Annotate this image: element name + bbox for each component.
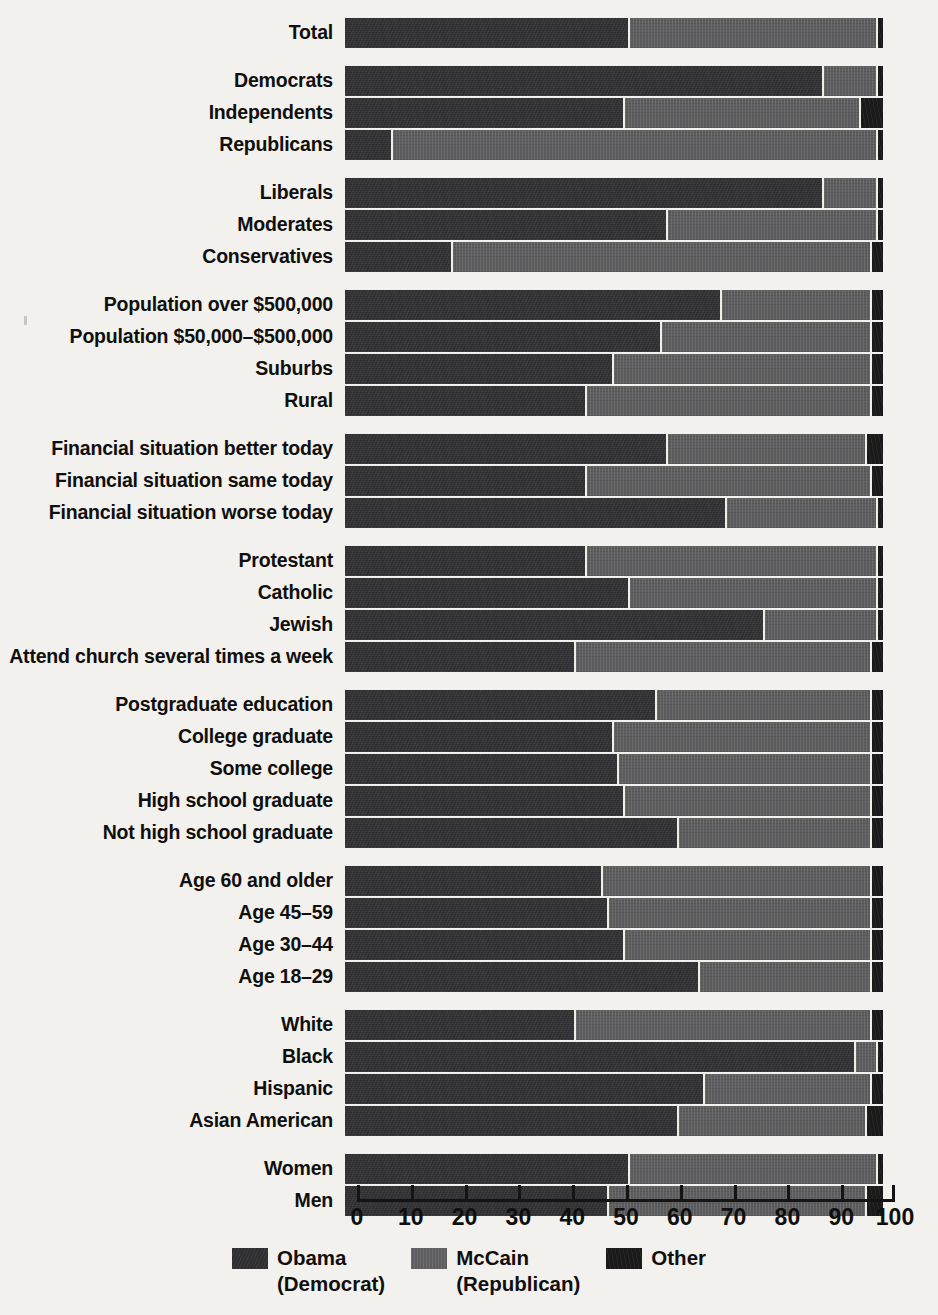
bar-segment-other [872,466,883,496]
bar-row[interactable]: Some college [0,754,938,784]
legend-item-obama[interactable]: Obama(Democrat) [232,1245,385,1297]
legend-item-mccain[interactable]: McCain(Republican) [411,1245,580,1297]
bar-row[interactable]: Age 45–59 [0,898,938,928]
legend-label-sub: (Democrat) [277,1271,385,1297]
bar-track [345,754,883,784]
bar-row[interactable]: Protestant [0,546,938,576]
bar-row[interactable]: Independents [0,98,938,128]
bar-track [345,290,883,320]
bar-row[interactable]: Age 30–44 [0,930,938,960]
bar-row[interactable]: Age 18–29 [0,962,938,992]
bar-row[interactable]: Financial situation worse today [0,498,938,528]
x-axis-tick [411,1185,414,1202]
bar-track [345,1010,883,1040]
bar-row[interactable]: Suburbs [0,354,938,384]
bar-segment-other [872,818,883,848]
bar-segment-mccain [856,1042,878,1072]
bar-segment-other [878,178,883,208]
bar-row-label: Hispanic [0,1079,345,1099]
bar-group-race: WhiteBlackHispanicAsian American [0,1010,938,1136]
bar-segment-other [872,642,883,672]
bar-segment-obama [345,786,625,816]
bar-row[interactable]: Liberals [0,178,938,208]
bar-row-label: Population over $500,000 [0,295,345,315]
bar-row-label: Black [0,1047,345,1067]
bar-row[interactable]: Not high school graduate [0,818,938,848]
x-axis-tick-label: 60 [667,1204,693,1231]
bar-segment-obama [345,354,614,384]
bar-segment-mccain [630,1154,877,1184]
bar-row[interactable]: Catholic [0,578,938,608]
bar-row-label: Moderates [0,215,345,235]
bar-track [345,962,883,992]
bar-row[interactable]: Financial situation same today [0,466,938,496]
bar-row-label: Independents [0,103,345,123]
bar-segment-mccain [765,610,878,640]
bar-segment-obama [345,66,824,96]
bar-segment-other [872,866,883,896]
bar-segment-obama [345,1042,856,1072]
bar-segment-obama [345,210,668,240]
bar-row[interactable]: Total [0,18,938,48]
bar-segment-other [867,434,883,464]
bar-row[interactable]: Black [0,1042,938,1072]
bar-segment-mccain [625,930,872,960]
bar-segment-obama [345,322,662,352]
bar-track [345,898,883,928]
x-axis-tick-label: 30 [506,1204,532,1231]
bar-segment-other [872,898,883,928]
x-axis-tick [680,1185,683,1202]
bar-row[interactable]: Moderates [0,210,938,240]
bar-track [345,98,883,128]
bar-row[interactable]: Conservatives [0,242,938,272]
bar-row[interactable]: Postgraduate education [0,690,938,720]
legend-label-sub: (Republican) [456,1271,580,1297]
bar-row-label: Catholic [0,583,345,603]
bar-row-label: Protestant [0,551,345,571]
bar-row-label: Attend church several times a week [0,647,345,667]
bar-row[interactable]: Rural [0,386,938,416]
bar-row[interactable]: Population $50,000–$500,000 [0,322,938,352]
bar-track [345,866,883,896]
bar-segment-other [872,962,883,992]
bar-row[interactable]: Age 60 and older [0,866,938,896]
bar-segment-obama [345,18,630,48]
chart-legend: Obama(Democrat)McCain(Republican)Other [0,1245,938,1297]
bar-row[interactable]: College graduate [0,722,938,752]
bar-row-label: Age 18–29 [0,967,345,987]
bar-row[interactable]: Republicans [0,130,938,160]
bar-row[interactable]: Democrats [0,66,938,96]
bar-row[interactable]: Financial situation better today [0,434,938,464]
bar-segment-obama [345,1074,705,1104]
bar-row[interactable]: Population over $500,000 [0,290,938,320]
bar-segment-obama [345,898,609,928]
bar-segment-mccain [668,210,878,240]
legend-item-other[interactable]: Other [606,1245,706,1271]
bar-row[interactable]: Asian American [0,1106,938,1136]
bar-row[interactable]: Hispanic [0,1074,938,1104]
bar-segment-obama [345,930,625,960]
bar-segment-mccain [722,290,873,320]
bar-track [345,930,883,960]
bar-segment-mccain [609,898,873,928]
bar-row[interactable]: High school graduate [0,786,938,816]
bar-segment-mccain [393,130,877,160]
bar-segment-mccain [587,466,872,496]
x-axis-tick-label: 100 [876,1204,914,1231]
legend-item-label: Obama(Democrat) [277,1245,385,1297]
bar-row-label: Financial situation same today [0,471,345,491]
bar-row-label: Some college [0,759,345,779]
bar-row[interactable]: Women [0,1154,938,1184]
chart-plot-area: TotalDemocratsIndependentsRepublicansLib… [0,18,938,1216]
bar-row[interactable]: White [0,1010,938,1040]
bar-row[interactable]: Attend church several times a week [0,642,938,672]
bar-row-label: Age 60 and older [0,871,345,891]
bar-segment-other [867,1106,883,1136]
bar-segment-other [878,210,883,240]
x-axis-tick [626,1185,629,1202]
bar-row[interactable]: Jewish [0,610,938,640]
legend-item-label: McCain(Republican) [456,1245,580,1297]
bar-segment-mccain [576,642,872,672]
bar-segment-obama [345,866,603,896]
bar-track [345,434,883,464]
